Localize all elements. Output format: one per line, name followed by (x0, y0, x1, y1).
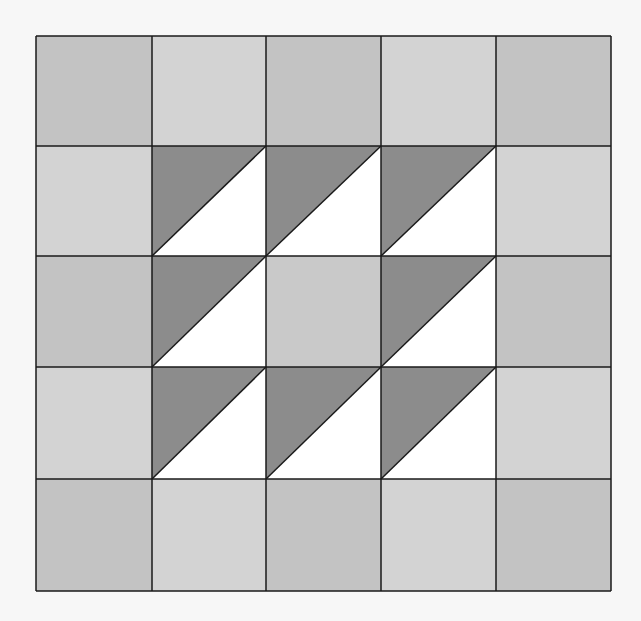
light-square (381, 479, 496, 591)
dark-square (36, 36, 152, 146)
dark-square (36, 479, 152, 591)
center-square (266, 256, 381, 367)
dark-square (266, 36, 381, 146)
dark-square (36, 256, 152, 367)
light-square (36, 367, 152, 479)
light-square (152, 36, 266, 146)
light-square (36, 146, 152, 256)
dark-square (496, 479, 611, 591)
dark-square (266, 479, 381, 591)
light-square (152, 479, 266, 591)
light-square (496, 367, 611, 479)
quilt-block-diagram (0, 0, 641, 621)
dark-square (496, 36, 611, 146)
light-square (496, 146, 611, 256)
light-square (381, 36, 496, 146)
dark-square (496, 256, 611, 367)
